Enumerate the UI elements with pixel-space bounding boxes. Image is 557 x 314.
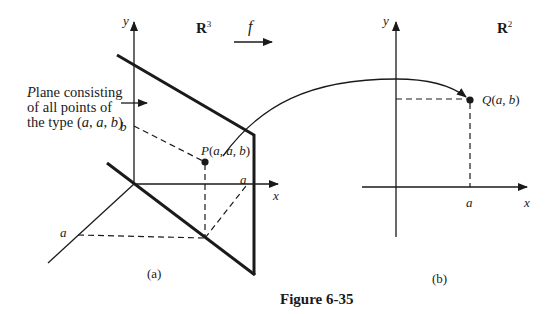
space-r2: R xyxy=(497,20,508,36)
point-p xyxy=(201,158,208,165)
point-p-text: P(a, a, b) xyxy=(201,143,250,158)
plane-annotation: Plane consisting of all points of the ty… xyxy=(27,85,123,130)
projection-dashes-2d xyxy=(396,99,470,187)
a-tick-label-z: a xyxy=(60,226,67,239)
a-tick-label-x: a xyxy=(240,173,247,186)
z-axis-3d xyxy=(48,184,134,263)
y-axis-label-3d: y xyxy=(123,14,129,27)
plane-a-a-b xyxy=(107,55,255,275)
space-label-r3: R3 xyxy=(196,20,211,36)
b-tick-label: b xyxy=(120,120,127,133)
y-axis-label-2d: y xyxy=(383,14,389,27)
x-axis-label-2d: x xyxy=(524,196,530,209)
point-q xyxy=(466,96,473,103)
panel-a-sublabel: (a) xyxy=(147,267,161,280)
space-exponent-3: 3 xyxy=(207,19,212,29)
point-q-text: Q(a, b) xyxy=(482,92,520,107)
figure-6-35 xyxy=(0,0,557,314)
point-q-label: Q(a, b) xyxy=(482,93,520,106)
mapping-f-label: f xyxy=(248,19,252,35)
plane-annotation-text: Plane consisting of all points of the ty… xyxy=(27,84,123,130)
panel-b-sublabel: (b) xyxy=(432,272,447,285)
point-p-label: P(a, a, b) xyxy=(201,144,250,157)
curve-p-to-q xyxy=(223,79,466,156)
x-axis-label-3d: x xyxy=(273,189,279,202)
space-exponent-2: 2 xyxy=(508,19,513,29)
panel-b-r2 xyxy=(362,22,527,237)
figure-caption: Figure 6-35 xyxy=(280,292,353,307)
space-r: R xyxy=(196,20,207,36)
space-label-r2: R2 xyxy=(497,20,512,36)
a-tick-label-2d: a xyxy=(466,196,473,209)
